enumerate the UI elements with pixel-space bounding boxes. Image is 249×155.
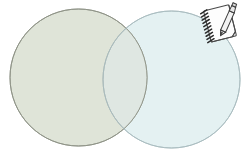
venn-diagram-canvas [0, 0, 249, 155]
notepad-pencil-icon[interactable] [200, 0, 249, 50]
notepad-pencil-graphic [200, 0, 249, 50]
